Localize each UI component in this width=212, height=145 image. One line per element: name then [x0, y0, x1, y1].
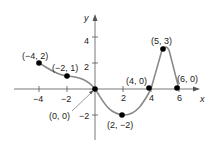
- point-label: (4, 0): [126, 76, 147, 86]
- point: [174, 85, 180, 91]
- x-axis-arrow-icon: [193, 87, 200, 92]
- point-label: (2, −2): [107, 120, 133, 130]
- y-axis-label: y: [83, 13, 89, 23]
- point: [146, 85, 152, 91]
- point-label: (−2, 1): [52, 63, 78, 73]
- x-tick-label: −2: [61, 94, 71, 104]
- x-tick-label: −4: [33, 94, 43, 104]
- point: [92, 86, 98, 92]
- point: [64, 73, 70, 79]
- y-tick-label: 4: [84, 36, 89, 46]
- y-tick-label: −2: [79, 111, 89, 121]
- x-tick-label: 2: [121, 93, 126, 103]
- function-curve: [39, 47, 179, 115]
- point: [36, 60, 42, 66]
- point-label: (5, 3): [151, 36, 172, 46]
- point-label: (6, 0): [177, 74, 198, 84]
- x-tick-label: 4: [149, 93, 154, 103]
- x-tick-label: 6: [177, 93, 182, 103]
- point-label: (0, 0): [49, 111, 70, 121]
- point-label: (−4, 2): [22, 51, 48, 61]
- origin-pointer: [72, 92, 92, 111]
- point: [160, 46, 166, 52]
- graph: −4 −2 2 4 6 4 2 −2 x y (−4, 2) (−2, 1) (…: [0, 0, 212, 145]
- point: [119, 112, 125, 118]
- y-axis-arrow-icon: [93, 14, 98, 21]
- x-axis-label: x: [199, 94, 205, 104]
- y-tick-label: 2: [84, 62, 89, 72]
